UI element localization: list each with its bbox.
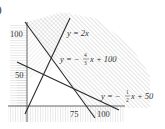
svg-text:x + 100: x + 100 — [89, 54, 117, 64]
x-tick-100: 100 — [97, 109, 110, 119]
part-marker: ) — [0, 3, 2, 16]
svg-text:1: 1 — [126, 89, 129, 95]
label-y-equals-neg-1-2x-plus-50: y = − 1 2 x + 50 — [100, 89, 154, 103]
y-tick-50: 50 — [15, 70, 24, 80]
svg-text:2: 2 — [126, 97, 129, 103]
svg-text:y = −: y = − — [100, 91, 121, 101]
y-tick-100: 100 — [10, 29, 23, 39]
x-tick-75: 75 — [70, 109, 79, 119]
label-y-equals-2x: y = 2x — [66, 28, 89, 38]
svg-text:4: 4 — [84, 52, 87, 58]
feasible-region-diagram: ) 100 50 75 100 y = 2x y = − 4 3 x + 100… — [0, 0, 165, 129]
svg-text:3: 3 — [84, 60, 87, 66]
svg-text:y = −: y = − — [59, 54, 80, 64]
svg-text:x + 50: x + 50 — [130, 91, 154, 101]
